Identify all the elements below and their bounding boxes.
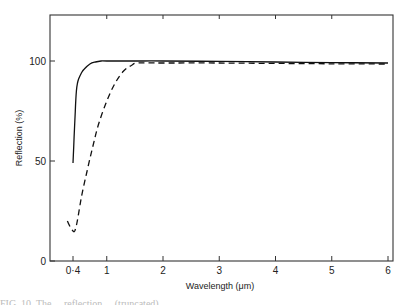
y-axis-title: Reflection (%) — [14, 110, 24, 167]
axis-ticks: 0·4123456050100 — [29, 15, 391, 276]
y-tick-label: 50 — [35, 156, 47, 167]
x-tick-label: 0·4 — [66, 265, 81, 276]
reflection-chart: 0·4123456050100 Wavelength (μm) Reflecti… — [0, 0, 410, 305]
plot-border — [50, 15, 393, 261]
x-tick-label: 2 — [160, 265, 166, 276]
x-axis-title: Wavelength (μm) — [186, 281, 254, 291]
figure-caption: FIG. 10. The ... reflection ... (truncat… — [0, 298, 410, 305]
data-series — [67, 61, 388, 232]
x-tick-label: 3 — [216, 265, 222, 276]
dashed-curve — [67, 63, 388, 232]
x-tick-label: 1 — [104, 265, 110, 276]
y-tick-label: 100 — [29, 56, 46, 67]
x-tick-label: 4 — [273, 265, 279, 276]
x-tick-label: 6 — [385, 265, 391, 276]
plot-frame — [50, 15, 393, 261]
x-tick-label: 5 — [329, 265, 335, 276]
y-tick-label: 0 — [40, 256, 46, 267]
solid-curve — [73, 61, 388, 163]
